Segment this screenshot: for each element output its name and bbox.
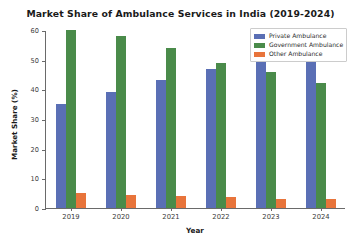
bar-private[interactable] <box>256 54 266 208</box>
bar-other[interactable] <box>176 196 186 208</box>
bar-private[interactable] <box>106 92 116 208</box>
legend-label-other: Other Ambulance <box>269 51 322 57</box>
y-tick-mark <box>42 209 46 210</box>
x-tick-label: 2024 <box>312 213 329 221</box>
x-tick-mark <box>321 208 322 211</box>
bar-government[interactable] <box>266 72 276 208</box>
bar-other[interactable] <box>226 197 236 208</box>
legend-swatch-private-icon <box>254 34 265 39</box>
x-tick-label: 2023 <box>262 213 279 221</box>
bar-other[interactable] <box>126 195 136 208</box>
y-tick-label: 30 <box>31 116 39 124</box>
legend-label-private: Private Ambulance <box>269 33 326 39</box>
legend-swatch-government-icon <box>254 43 265 48</box>
bar-government[interactable] <box>316 83 326 208</box>
bar-group <box>56 31 86 208</box>
x-tick-mark <box>71 208 72 211</box>
bar-private[interactable] <box>306 57 316 208</box>
legend-swatch-other-icon <box>254 52 265 57</box>
bar-group <box>156 31 186 208</box>
chart-figure: Market Share of Ambulance Services in In… <box>0 0 361 245</box>
bar-private[interactable] <box>156 80 166 208</box>
y-tick-label: 20 <box>31 146 39 154</box>
y-tick-label: 50 <box>31 57 39 65</box>
bar-government[interactable] <box>166 48 176 208</box>
legend-label-government: Government Ambulance <box>269 42 343 48</box>
x-tick-label: 2019 <box>62 213 79 221</box>
legend-item-private[interactable]: Private Ambulance <box>254 32 343 40</box>
x-tick-mark <box>121 208 122 211</box>
y-axis-label: Market Share (%) <box>10 70 19 180</box>
bar-group <box>206 31 236 208</box>
y-tick-label: 60 <box>31 27 39 35</box>
bar-group <box>106 31 136 208</box>
bar-private[interactable] <box>206 69 216 208</box>
y-tick-label: 10 <box>31 175 39 183</box>
y-tick-label: 40 <box>31 86 39 94</box>
x-axis-label: Year <box>45 226 345 235</box>
bar-other[interactable] <box>76 193 86 208</box>
x-tick-mark <box>221 208 222 211</box>
bar-government[interactable] <box>216 63 226 208</box>
x-tick-label: 2020 <box>112 213 129 221</box>
x-tick-label: 2021 <box>162 213 179 221</box>
bar-other[interactable] <box>276 199 286 208</box>
x-tick-mark <box>171 208 172 211</box>
bar-government[interactable] <box>116 36 126 208</box>
bar-private[interactable] <box>56 104 66 208</box>
chart-legend: Private Ambulance Government Ambulance O… <box>250 28 347 62</box>
y-tick-label: 0 <box>35 205 39 213</box>
legend-item-other[interactable]: Other Ambulance <box>254 50 343 58</box>
bar-other[interactable] <box>326 199 336 208</box>
x-tick-label: 2022 <box>212 213 229 221</box>
chart-title: Market Share of Ambulance Services in In… <box>0 8 361 19</box>
bar-government[interactable] <box>66 30 76 208</box>
x-tick-mark <box>271 208 272 211</box>
legend-item-government[interactable]: Government Ambulance <box>254 41 343 49</box>
